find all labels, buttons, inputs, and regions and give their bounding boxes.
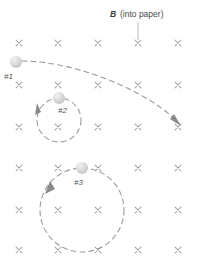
trajectory-particle-2 bbox=[37, 98, 81, 142]
field-grid bbox=[16, 40, 181, 253]
field-x-row bbox=[16, 207, 181, 213]
particle-2-label: #2 bbox=[58, 106, 67, 115]
particle-3-label: #3 bbox=[74, 178, 83, 187]
particle-1 bbox=[10, 56, 22, 68]
field-label-note: (into paper) bbox=[120, 9, 164, 19]
field-x-row bbox=[16, 247, 181, 253]
particle-2 bbox=[53, 92, 65, 104]
field-x-row bbox=[16, 40, 181, 46]
particle-3 bbox=[76, 162, 88, 174]
particle-1-label: #1 bbox=[4, 72, 13, 81]
field-label-b: B bbox=[110, 9, 116, 19]
magnetic-field-particle-diagram: B (into paper) #1 #2 #3 bbox=[0, 0, 197, 270]
trajectory-arrow-particle-2 bbox=[35, 103, 41, 115]
field-x-row bbox=[16, 124, 181, 130]
field-x-row bbox=[16, 165, 181, 171]
field-x-row bbox=[16, 82, 181, 88]
trajectory-particle-1 bbox=[22, 61, 177, 121]
